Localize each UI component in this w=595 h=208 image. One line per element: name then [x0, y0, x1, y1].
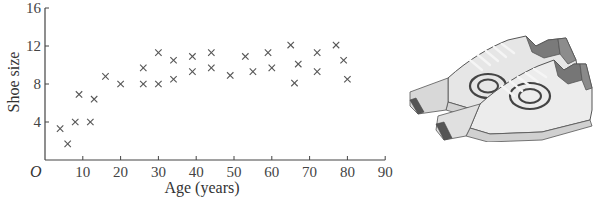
y-axis-title: Shoe size [5, 52, 22, 113]
data-point-x-marker [87, 119, 93, 125]
data-point-x-marker [57, 125, 63, 131]
data-point-x-marker [64, 141, 70, 147]
data-point-x-marker [250, 68, 256, 74]
y-tick-label: 16 [26, 0, 42, 16]
x-tick-label: 90 [378, 164, 393, 180]
data-point-x-marker [269, 65, 275, 71]
data-point-x-marker [76, 91, 82, 97]
x-tick-label: 20 [113, 164, 128, 180]
y-tick-label: 8 [34, 76, 42, 92]
y-tick-label: 12 [26, 38, 41, 54]
x-tick-label: 60 [264, 164, 279, 180]
x-tick-label: 80 [340, 164, 355, 180]
data-point-x-marker [91, 96, 97, 102]
data-point-x-marker [140, 65, 146, 71]
data-point-x-marker [117, 81, 123, 87]
chart-canvas: 102030405060708090481216 O Age (years) S… [0, 0, 400, 208]
x-tick-label: 10 [75, 164, 90, 180]
data-point-x-marker [72, 119, 78, 125]
data-point-x-marker [208, 65, 214, 71]
data-point-x-marker [170, 76, 176, 82]
data-point-x-marker [344, 76, 350, 82]
x-tick-label: 70 [302, 164, 317, 180]
y-tick-label: 4 [34, 114, 42, 130]
x-axis-title: Age (years) [164, 179, 239, 197]
data-point-x-marker [155, 81, 161, 87]
x-tick-label: 50 [227, 164, 242, 180]
x-tick-label: 30 [151, 164, 166, 180]
data-point-x-marker [102, 73, 108, 79]
sneakers-illustration [408, 30, 594, 142]
data-point-x-marker [314, 68, 320, 74]
axes [45, 8, 385, 160]
data-point-x-marker [288, 42, 294, 48]
data-point-x-marker [291, 80, 297, 86]
data-point-x-marker [170, 57, 176, 63]
data-point-x-marker [155, 49, 161, 55]
data-point-x-marker [265, 49, 271, 55]
data-point-x-marker [314, 49, 320, 55]
data-point-x-marker [333, 42, 339, 48]
data-point-x-marker [189, 53, 195, 59]
data-point-x-marker [227, 72, 233, 78]
data-point-x-marker [295, 61, 301, 67]
origin-label: O [30, 163, 42, 180]
data-points [57, 42, 351, 147]
axis-ticks: 102030405060708090481216 [26, 0, 393, 180]
data-point-x-marker [242, 53, 248, 59]
data-point-x-marker [189, 68, 195, 74]
data-point-x-marker [340, 57, 346, 63]
data-point-x-marker [140, 81, 146, 87]
scatter-chart: 102030405060708090481216 O Age (years) S… [0, 0, 400, 208]
data-point-x-marker [208, 49, 214, 55]
sneakers-icon [408, 30, 594, 142]
x-tick-label: 40 [189, 164, 204, 180]
